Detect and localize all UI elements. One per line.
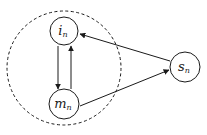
node-i-label: in [58,24,67,39]
edge-m-to-s [80,70,169,106]
node-s-label: sn [178,60,190,75]
node-m-label: mn [54,97,71,112]
node-s-sub: n [185,66,190,75]
edge-s-to-i [80,34,170,61]
node-s-base: s [178,59,185,74]
node-m-sub: n [67,103,72,112]
diagram-canvas: in mn sn [0,0,207,135]
diagram-svg [0,0,207,135]
node-m-base: m [54,96,66,111]
node-i-sub: n [63,30,68,39]
